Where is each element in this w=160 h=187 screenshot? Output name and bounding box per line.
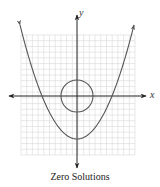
y-axis-label: y bbox=[79, 7, 83, 18]
graph bbox=[0, 0, 160, 187]
x-axis-label: x bbox=[150, 89, 154, 100]
grid bbox=[21, 35, 135, 155]
caption: Zero Solutions bbox=[0, 171, 160, 182]
